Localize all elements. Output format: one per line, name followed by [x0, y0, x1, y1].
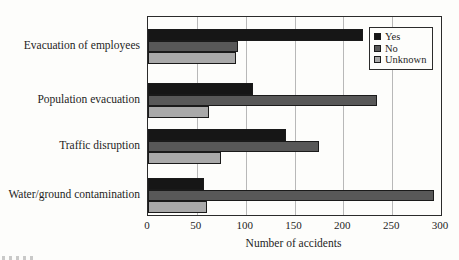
bar-yes-2: [148, 83, 253, 95]
gridline-150: [295, 17, 296, 215]
bar-unknown-1: [148, 52, 236, 64]
legend-label-unknown: Unknown: [385, 54, 426, 65]
x-tick-150: 150: [277, 219, 311, 231]
legend-item-yes: Yes: [374, 31, 426, 43]
x-axis-title: Number of accidents: [147, 237, 440, 249]
legend-marker-no: [374, 45, 381, 52]
bar-yes-4: [148, 178, 204, 190]
bar-yes-1: [148, 29, 363, 41]
bar-yes-3: [148, 129, 286, 141]
bar-no-1: [148, 41, 238, 53]
category-label-1: Evacuation of employees: [0, 39, 140, 52]
x-tick-250: 250: [374, 219, 408, 231]
bar-unknown-3: [148, 152, 221, 164]
x-tick-0: 0: [130, 219, 164, 231]
bar-chart: Evacuation of employeesPopulation evacua…: [0, 0, 459, 260]
category-label-4: Water/ground contamination: [0, 188, 140, 201]
bar-no-4: [148, 190, 434, 202]
category-label-3: Traffic disruption: [0, 139, 140, 152]
x-tick-200: 200: [325, 219, 359, 231]
legend-marker-unknown: [374, 56, 381, 63]
legend-label-no: No: [385, 43, 398, 54]
legend-marker-yes: [374, 33, 381, 40]
category-label-2: Population evacuation: [0, 93, 140, 106]
bar-no-3: [148, 141, 319, 153]
legend-item-unknown: Unknown: [374, 54, 426, 66]
bar-unknown-4: [148, 201, 207, 213]
bar-no-2: [148, 95, 377, 107]
gridline-100: [246, 17, 247, 215]
x-tick-50: 50: [179, 219, 213, 231]
caption-fragment: [2, 256, 34, 260]
bar-unknown-2: [148, 106, 209, 118]
x-tick-100: 100: [228, 219, 262, 231]
legend: YesNoUnknown: [369, 27, 433, 70]
legend-item-no: No: [374, 43, 426, 55]
legend-label-yes: Yes: [385, 31, 400, 42]
gridline-200: [343, 17, 344, 215]
x-tick-300: 300: [423, 219, 457, 231]
